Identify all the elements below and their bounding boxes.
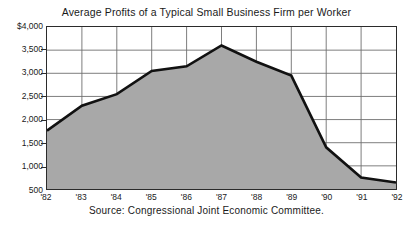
area-series (47, 27, 396, 189)
x-axis-tick-label: '90 (312, 193, 342, 202)
y-axis-tick-label: 3,500 (1, 45, 43, 54)
y-axis-tick-label: 2,500 (1, 92, 43, 101)
y-axis-tick-label: 2,000 (1, 115, 43, 124)
x-axis-tick-label: '85 (136, 193, 166, 202)
x-axis-tick-label: '82 (31, 193, 61, 202)
y-axis-tick-label: $4,000 (1, 22, 43, 31)
x-axis-tick-label: '84 (101, 193, 131, 202)
x-axis-tick-label: '86 (171, 193, 201, 202)
x-axis-labels: '82'83'84'85'86'87'88'89'90'91'92 (46, 193, 397, 205)
x-axis-tick-label: '89 (277, 193, 307, 202)
chart-figure: Average Profits of a Typical Small Busin… (0, 0, 413, 226)
chart-title: Average Profits of a Typical Small Busin… (0, 6, 413, 18)
x-axis-tick-label: '92 (382, 193, 412, 202)
y-axis-tick-label: 1,500 (1, 139, 43, 148)
y-axis-tick-label: 1,000 (1, 162, 43, 171)
x-axis-tick-label: '91 (347, 193, 377, 202)
x-axis-tick-label: '87 (207, 193, 237, 202)
x-axis-tick-label: '88 (242, 193, 272, 202)
y-axis-tick-label: 3,000 (1, 68, 43, 77)
source-caption: Source: Congressional Joint Economic Com… (0, 205, 413, 216)
plot-area (46, 26, 397, 190)
x-axis-tick-label: '83 (66, 193, 96, 202)
